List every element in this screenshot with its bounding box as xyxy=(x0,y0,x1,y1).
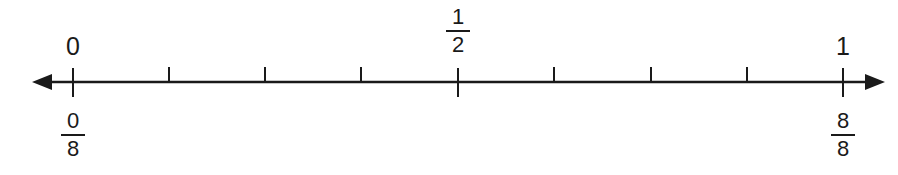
half-denominator: 2 xyxy=(452,32,464,56)
label-one: 1 xyxy=(836,34,850,59)
eight-eighths-numerator: 8 xyxy=(837,110,849,134)
zero-eighths-denominator: 8 xyxy=(67,136,79,160)
label-zero-eighths: 0 8 xyxy=(61,110,85,160)
left-arrow-icon xyxy=(32,74,52,90)
half-numerator: 1 xyxy=(452,6,464,30)
label-eight-eighths: 8 8 xyxy=(831,110,855,160)
zero-eighths-numerator: 0 xyxy=(67,110,79,134)
eight-eighths-denominator: 8 xyxy=(837,136,849,160)
right-arrow-icon xyxy=(865,74,885,90)
label-zero: 0 xyxy=(66,34,80,59)
label-one-half: 1 2 xyxy=(446,6,470,56)
